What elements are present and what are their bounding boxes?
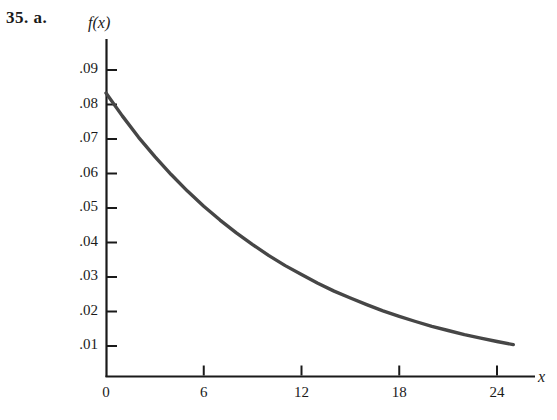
y-axis-ticks	[107, 70, 117, 346]
exponential-density-figure: 35. a. f(x) x .01.02.03.04.05.06.07.08.0…	[0, 0, 557, 420]
x-axis-ticks	[204, 366, 497, 376]
density-curve	[106, 93, 513, 345]
plot-area	[0, 0, 557, 420]
axis-lines	[106, 39, 536, 377]
